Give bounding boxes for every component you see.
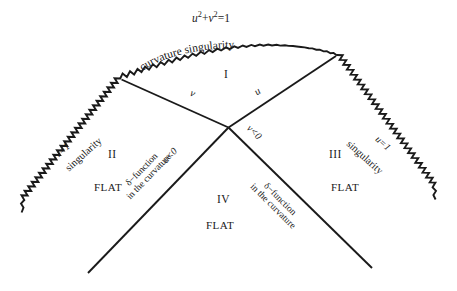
svg-text:curvature singularity: curvature singularity [137, 38, 234, 73]
region-flat-III: FLAT [331, 182, 359, 194]
region-label-III: III [329, 148, 342, 160]
region-label-IV: IV [217, 193, 230, 205]
region-flat-IV: FLAT [206, 220, 234, 232]
region-label-II: II [108, 148, 116, 160]
region-label-I: I [224, 68, 228, 80]
spacetime-diagram: u2+v2=1 curvature singularity I II FLAT … [0, 0, 457, 291]
curvature-singularity-label: curvature singularity [137, 38, 234, 73]
